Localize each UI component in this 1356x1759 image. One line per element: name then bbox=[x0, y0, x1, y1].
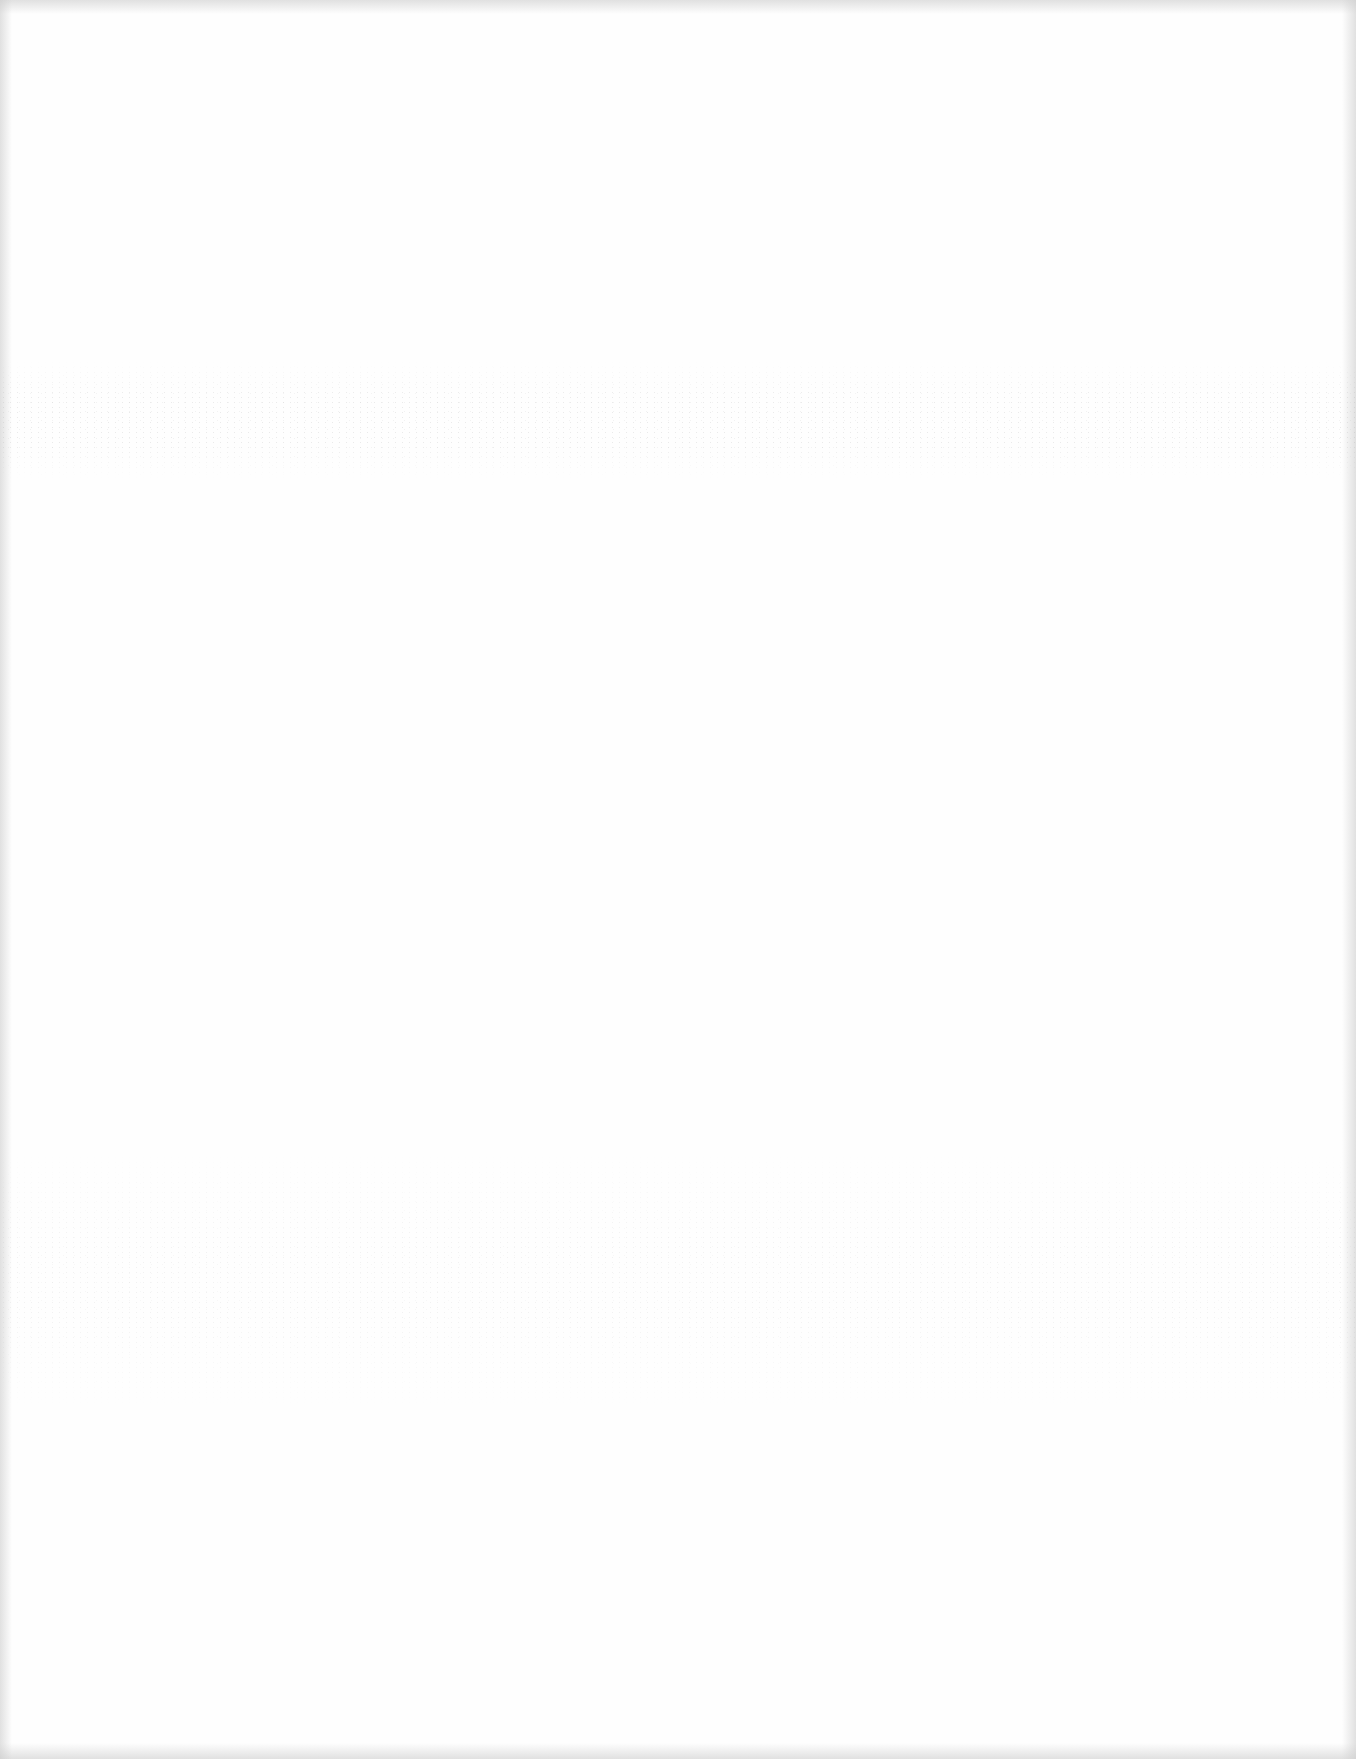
scan-edge-bottom bbox=[0, 1743, 1356, 1759]
scan-noise-band-lower bbox=[0, 1150, 1356, 1410]
scan-edge-top bbox=[0, 0, 1356, 14]
scan-edge-left bbox=[0, 0, 12, 1759]
blank-scanned-page bbox=[0, 0, 1356, 1759]
scan-edge-right bbox=[1342, 0, 1356, 1759]
scan-noise-band-upper bbox=[0, 360, 1356, 480]
